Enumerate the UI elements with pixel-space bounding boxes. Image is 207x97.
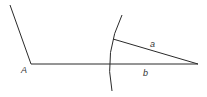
ray-from-A (10, 5, 31, 64)
side-label-b: b (143, 68, 148, 78)
point-label-A: A (20, 65, 27, 75)
side-label-a: a (150, 39, 155, 49)
geometry-diagram: A a b (0, 0, 207, 97)
compass-arc (110, 15, 122, 91)
side-a (113, 39, 198, 64)
